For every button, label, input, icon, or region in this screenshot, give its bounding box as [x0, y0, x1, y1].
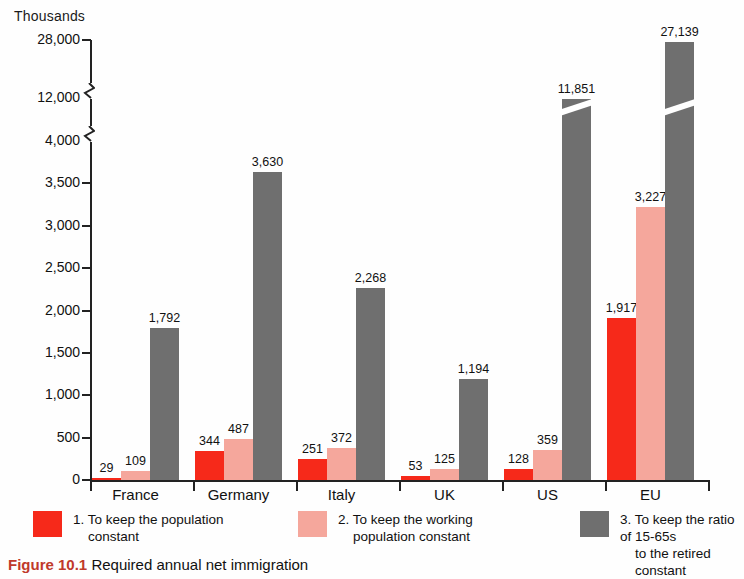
bar-italy-series2 [327, 448, 356, 480]
figure-caption-text: Required annual net immigration [91, 556, 308, 573]
y-axis-tick-label: 1,500 [8, 344, 80, 360]
y-axis-line [90, 40, 92, 481]
category-tick [90, 480, 92, 491]
legend-swatch-ratio [580, 511, 609, 537]
bar-eu-series1 [607, 318, 636, 480]
legend-line-1: 1. To keep the population [73, 512, 224, 527]
y-axis-tick-label: 12,000 [8, 89, 80, 105]
bar-value-label: 3,630 [252, 155, 283, 169]
bar-value-label: 3,227 [635, 190, 666, 204]
bar-value-label: 27,139 [660, 25, 698, 39]
y-axis-tick [82, 225, 91, 227]
break-mark-4000-12000 [82, 126, 95, 142]
y-axis-tick [82, 39, 91, 41]
y-axis-tick [82, 267, 91, 269]
legend-line-1: 3. To keep the ratio of 15-65s [620, 512, 735, 544]
y-axis-tick [82, 394, 91, 396]
y-axis-tick [82, 182, 91, 184]
legend-line-1: 2. To keep the working [338, 512, 473, 527]
category-label-germany: Germany [208, 486, 270, 503]
bar-germany-series2 [224, 439, 253, 480]
category-label-italy: Italy [328, 486, 356, 503]
category-label-us: US [537, 486, 558, 503]
y-axis-tick-label: 2,000 [8, 302, 80, 318]
bar-value-label: 344 [199, 434, 220, 448]
y-axis-tick-label: 4,000 [8, 132, 80, 148]
bar-break-slash [558, 98, 597, 116]
y-axis-tick-label: 2,500 [8, 259, 80, 275]
bar-value-label: 11,851 [558, 82, 595, 96]
bar-france-series1 [92, 478, 121, 480]
category-label-eu: EU [640, 486, 661, 503]
legend-label-2: 2. To keep the workingpopulation constan… [338, 511, 473, 545]
legend-label-1: 1. To keep the populationconstant [73, 511, 224, 545]
y-axis-tick-label: 28,000 [8, 31, 80, 47]
bar-break-slash [661, 98, 700, 116]
bar-value-label: 29 [100, 461, 114, 475]
legend-item-1: 1. To keep the populationconstant [33, 511, 224, 545]
chart-legend: 1. To keep the populationconstant2. To k… [0, 505, 744, 551]
y-axis-tick-label: 0 [8, 471, 80, 487]
bar-value-label: 359 [537, 433, 558, 447]
figure-number: Figure 10.1 [8, 556, 87, 573]
bar-eu-series2 [636, 207, 665, 480]
bar-uk-series2 [430, 469, 459, 480]
bar-value-label: 2,268 [355, 271, 386, 285]
bar-value-label: 372 [331, 431, 352, 445]
y-axis-tick-label: 3,500 [8, 174, 80, 190]
category-label-france: France [112, 486, 159, 503]
category-tick [605, 480, 607, 491]
legend-swatch-working-population [298, 511, 327, 537]
bar-value-label: 125 [434, 452, 455, 466]
bar-italy-series3 [356, 288, 385, 480]
legend-swatch-population [33, 511, 62, 537]
y-axis-tick-label: 1,000 [8, 386, 80, 402]
y-axis-unit-label: Thousands [14, 8, 85, 24]
bar-uk-series1 [401, 476, 430, 480]
bar-value-label: 1,792 [149, 311, 180, 325]
bar-germany-series1 [195, 451, 224, 480]
bar-us-series3 [562, 99, 591, 480]
y-axis-tick-label: 3,000 [8, 217, 80, 233]
y-axis-tick [82, 352, 91, 354]
bar-france-series3 [150, 328, 179, 480]
category-tick [502, 480, 504, 491]
legend-item-2: 2. To keep the workingpopulation constan… [298, 511, 473, 545]
figure-caption: Figure 10.1 Required annual net immigrat… [8, 556, 738, 573]
category-label-uk: UK [434, 486, 455, 503]
bar-us-series2 [533, 450, 562, 480]
category-tick-end [708, 480, 710, 491]
y-axis-tick [82, 310, 91, 312]
bar-value-label: 1,194 [458, 362, 489, 376]
bar-us-series1 [504, 469, 533, 480]
category-tick [296, 480, 298, 491]
bar-value-label: 1,917 [606, 301, 637, 315]
bar-italy-series1 [298, 459, 327, 480]
bar-value-label: 251 [302, 442, 323, 456]
bar-eu-series3 [665, 42, 694, 480]
y-axis-tick-label: 500 [8, 429, 80, 445]
bar-france-series2 [121, 471, 150, 480]
break-mark-12000-28000 [82, 83, 95, 99]
bar-germany-series3 [253, 172, 282, 480]
category-tick [193, 480, 195, 491]
bar-uk-series3 [459, 379, 488, 480]
y-axis-tick [82, 437, 91, 439]
legend-line-2: population constant [338, 528, 473, 545]
bar-value-label: 128 [508, 452, 529, 466]
legend-line-2: constant [73, 528, 224, 545]
bar-value-label: 53 [409, 459, 423, 473]
bar-value-label: 109 [125, 454, 146, 468]
category-tick [399, 480, 401, 491]
bar-value-label: 487 [228, 422, 249, 436]
